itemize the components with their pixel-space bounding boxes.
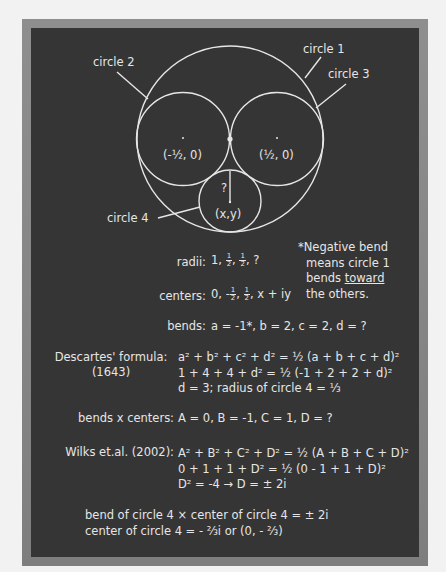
descartes-label: Descartes' formula: (1643) xyxy=(48,350,174,380)
center-dot-2 xyxy=(182,137,184,139)
conclusion: bend of circle 4 × center of circle 4 = … xyxy=(85,508,329,539)
label-circle-2: circle 2 xyxy=(93,56,135,69)
negative-bend-note: *Negative bend means circle 1 bends towa… xyxy=(298,240,390,302)
label-circle-4: circle 4 xyxy=(107,212,149,225)
note-line-3: bends toward xyxy=(298,271,390,287)
center-label-circle-2: (-½, 0) xyxy=(163,149,202,162)
label-circle-1: circle 1 xyxy=(303,43,345,56)
note-line-4: the others. xyxy=(298,287,390,303)
bends-label: bends: xyxy=(110,320,206,333)
leader-circle-3 xyxy=(316,84,346,108)
bends-centers-value: A = 0, B = -1, C = 1, D = ? xyxy=(178,412,333,425)
note-line-1: *Negative bend xyxy=(298,240,390,256)
bends-centers-label: bends x centers: xyxy=(40,412,174,425)
radii-label: radii: xyxy=(110,256,206,269)
radius-unknown-label: ? xyxy=(221,182,227,195)
wilks-formula: A² + B² + C² + D² = ½ (A + B + C + D)² 0… xyxy=(178,446,409,493)
leader-circle-1 xyxy=(305,57,321,78)
centers-value: 0, -12, 12, x + iy xyxy=(211,287,291,302)
radii-value: 1, 12, 12, ? xyxy=(211,253,259,268)
center-label-circle-3: (½, 0) xyxy=(259,149,294,162)
center-dot-4 xyxy=(229,201,231,203)
center-dot-3 xyxy=(276,137,278,139)
label-circle-3: circle 3 xyxy=(328,68,370,81)
leader-circle-2 xyxy=(117,72,148,99)
bends-value: a = -1*, b = 2, c = 2, d = ? xyxy=(211,320,367,333)
center-label-circle-4: (x,y) xyxy=(215,208,241,221)
descartes-formula: a² + b² + c² + d² = ½ (a + b + c + d)² 1… xyxy=(178,350,399,397)
note-line-2: means circle 1 xyxy=(298,256,390,272)
centers-label: centers: xyxy=(110,290,206,303)
center-dot-1 xyxy=(227,136,232,141)
wilks-label: Wilks et.al. (2002): xyxy=(40,446,174,459)
